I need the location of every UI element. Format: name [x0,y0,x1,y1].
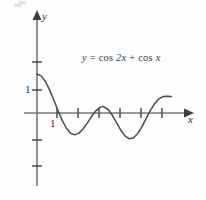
figure-container: y x 1 1 y = cos 2x + cos x [0,0,206,200]
equation-term1-fn: cos [99,52,114,63]
plot-canvas [0,0,206,200]
y-axis-tick-label-1: 1 [25,84,31,95]
equation-term1-arg: 2x [116,52,126,63]
axis-label-x: x [188,114,193,125]
x-axis-tick-label-1: 1 [50,118,56,129]
equation-term2-arg: x [156,52,161,63]
y-axis-arrow [33,10,42,20]
equation-term2-fn: cos [138,52,153,63]
axis-label-y: y [42,11,47,22]
curve-cos2x-plus-cosx [37,74,171,139]
equation-annotation: y = cos 2x + cos x [82,53,161,64]
